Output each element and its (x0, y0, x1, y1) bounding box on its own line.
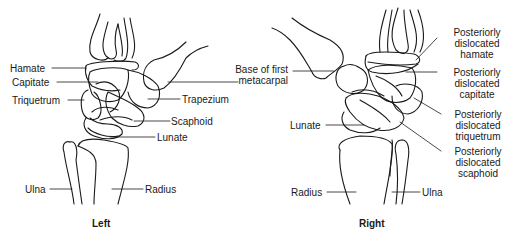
label-line: triquetrum (442, 131, 514, 142)
label-dislocated-triquetrum: Posteriorly dislocated triquetrum (442, 109, 514, 142)
left-wrist-bones (63, 14, 208, 204)
label-lunate-left: Lunate (157, 132, 188, 143)
caption-right: Right (359, 218, 385, 229)
label-dislocated-capitate: Posteriorly dislocated capitate (442, 67, 512, 100)
label-base-first-metacarpal-line2: metacarpal (218, 75, 288, 86)
caption-left: Left (92, 218, 110, 229)
label-line: hamate (442, 49, 512, 60)
label-line: dislocated (442, 120, 514, 131)
label-line: Posteriorly (442, 27, 512, 38)
label-line: scaphoid (442, 168, 514, 179)
label-line: dislocated (442, 38, 512, 49)
label-ulna-right: Ulna (422, 187, 443, 198)
right-wrist-bones (272, 8, 424, 204)
label-base-first-metacarpal-line1: Base of first (218, 64, 288, 75)
label-line: Posteriorly (442, 146, 514, 157)
label-line: capitate (442, 89, 512, 100)
left-leader-lines (50, 68, 238, 189)
label-radius-left: Radius (145, 184, 176, 195)
label-dislocated-hamate: Posteriorly dislocated hamate (442, 27, 512, 60)
right-leader-lines (293, 38, 441, 192)
label-lunate-right: Lunate (290, 120, 321, 131)
label-radius-right: Radius (291, 187, 322, 198)
label-line: Posteriorly (442, 67, 512, 78)
label-capitate-left: Capitate (12, 77, 49, 88)
label-trapezium-left: Trapezium (182, 94, 229, 105)
label-scaphoid-left: Scaphoid (171, 116, 213, 127)
label-hamate-left: Hamate (10, 63, 45, 74)
label-dislocated-scaphoid: Posteriorly dislocated scaphoid (442, 146, 514, 179)
label-ulna-left: Ulna (25, 184, 46, 195)
wrist-diagram-drawing (0, 0, 518, 238)
label-line: dislocated (442, 78, 512, 89)
label-line: dislocated (442, 157, 514, 168)
label-triquetrum-left: Triquetrum (12, 95, 60, 106)
label-line: Posteriorly (442, 109, 514, 120)
label-base-first-metacarpal: Base of first metacarpal (218, 64, 288, 86)
